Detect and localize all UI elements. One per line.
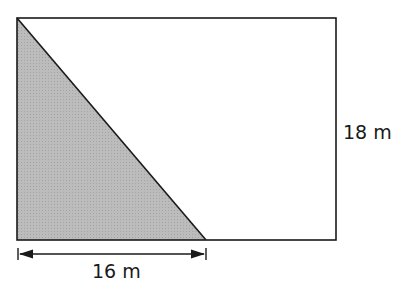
base-dimension-arrow bbox=[18, 248, 206, 260]
base-label: 16 m bbox=[92, 260, 141, 282]
height-label: 18 m bbox=[343, 121, 392, 143]
diagram-canvas bbox=[0, 0, 407, 302]
